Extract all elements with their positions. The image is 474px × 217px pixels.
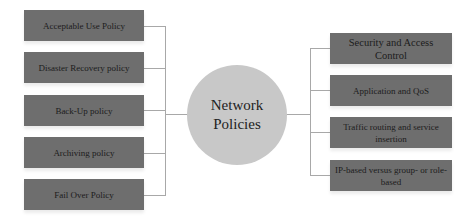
left-connector-4 [144,153,165,154]
hub-label-line1: Network [211,96,264,115]
node-label: Traffic routing and service insertion [334,121,448,145]
right-trunk-line [310,48,311,176]
node-acceptable-use-policy: Acceptable Use Policy [24,10,144,41]
node-label: Acceptable Use Policy [43,21,125,31]
node-label: Disaster Recovery policy [39,63,130,73]
node-label: Back-Up policy [55,106,112,116]
left-connector-2 [144,68,165,69]
node-fail-over-policy: Fail Over Policy [24,179,144,210]
node-ip-based-vs-group-role-based: IP-based versus group- or role-based [330,160,452,191]
node-label: Archiving policy [53,148,114,158]
node-label: Security and Access Control [334,36,448,62]
hub-label-line2: Policies [211,115,264,134]
left-connector-3 [144,110,165,111]
node-archiving-policy: Archiving policy [24,137,144,168]
node-back-up-policy: Back-Up policy [24,95,144,126]
left-trunk-line [165,26,166,196]
node-label: Fail Over Policy [54,190,114,200]
hub-network-policies: Network Policies [187,65,287,165]
right-hub-connector [286,114,310,115]
node-disaster-recovery-policy: Disaster Recovery policy [24,52,144,83]
node-security-and-access-control: Security and Access Control [330,33,452,64]
node-label: Application and QoS [353,85,429,97]
right-connector-4 [310,175,330,176]
right-connector-1 [310,48,330,49]
right-connector-3 [310,132,330,133]
left-hub-connector [165,114,188,115]
left-connector-5 [144,195,165,196]
right-connector-2 [310,90,330,91]
node-application-and-qos: Application and QoS [330,75,452,106]
node-label: IP-based versus group- or role-based [334,164,448,188]
node-traffic-routing: Traffic routing and service insertion [330,117,452,148]
left-connector-1 [144,26,165,27]
